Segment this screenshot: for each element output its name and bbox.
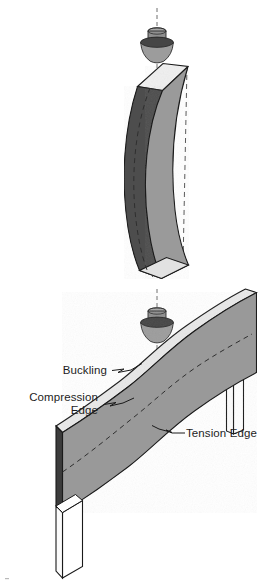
label-tension-edge: Tension Edge <box>186 427 257 439</box>
label-buckling: Buckling <box>63 364 107 376</box>
diagram-canvas: Buckling Compression Edge Tension Edge <box>0 0 274 588</box>
scan-artifact <box>5 578 9 579</box>
label-compression-edge-line2: Edge <box>71 404 98 416</box>
label-compression-edge-line1: Compression <box>29 391 98 403</box>
support-left <box>56 495 83 579</box>
buckling-figure: Buckling Compression Edge Tension Edge <box>0 0 274 588</box>
beam-left-end-face <box>56 426 63 513</box>
